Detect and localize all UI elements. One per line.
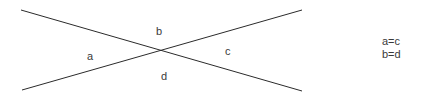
- equation-annotations: a=c b=d: [382, 35, 401, 61]
- angle-label-b: b: [156, 26, 162, 37]
- equation-b-equals-d: b=d: [382, 48, 401, 61]
- angle-label-d: d: [161, 71, 167, 82]
- equation-a-equals-c: a=c: [382, 35, 401, 48]
- intersecting-lines-diagram: [0, 0, 426, 97]
- angle-label-a: a: [87, 51, 93, 62]
- diagram-canvas: a b c d a=c b=d: [0, 0, 426, 97]
- angle-label-c: c: [225, 46, 231, 57]
